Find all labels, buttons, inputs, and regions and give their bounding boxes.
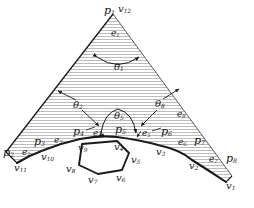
label-v4: v4 — [114, 142, 123, 153]
label-e5: e5 — [142, 129, 151, 138]
label-p2: p2 — [3, 147, 14, 159]
label-v7: v7 — [88, 175, 97, 186]
label-v6: v6 — [116, 173, 125, 184]
label-theta5: θ5 — [114, 111, 124, 122]
label-v8: v8 — [66, 164, 75, 175]
geometry-figure — [0, 0, 254, 208]
label-theta2: θ2 — [73, 100, 83, 111]
label-p3: p3 — [34, 136, 45, 148]
label-e4: e4 — [93, 129, 102, 138]
label-v12: v12 — [118, 4, 131, 15]
label-p8: p8 — [226, 153, 237, 165]
label-v9: v9 — [78, 143, 87, 154]
label-v10: v10 — [41, 152, 54, 163]
label-p7: p7 — [194, 135, 205, 147]
label-e8: e8 — [177, 110, 186, 119]
label-theta1: θ1 — [114, 62, 124, 73]
label-e1: e1 — [111, 29, 120, 38]
label-p4: p4 — [73, 126, 84, 138]
hatched-region — [0, 0, 254, 208]
label-p6: p6 — [161, 126, 172, 138]
label-v2: v2 — [189, 161, 198, 172]
label-p5: p5 — [115, 124, 126, 136]
label-e6: e6 — [178, 138, 187, 147]
label-theta8: θ8 — [155, 99, 165, 110]
label-e2: e2 — [22, 148, 31, 157]
label-v11: v11 — [14, 163, 27, 174]
label-v3: v3 — [156, 147, 165, 158]
label-v5: v5 — [131, 155, 140, 166]
label-e7: e7 — [209, 155, 218, 164]
label-v1: v1 — [226, 181, 235, 192]
label-e3: e3 — [54, 136, 63, 145]
label-p1: p1 — [104, 5, 115, 17]
